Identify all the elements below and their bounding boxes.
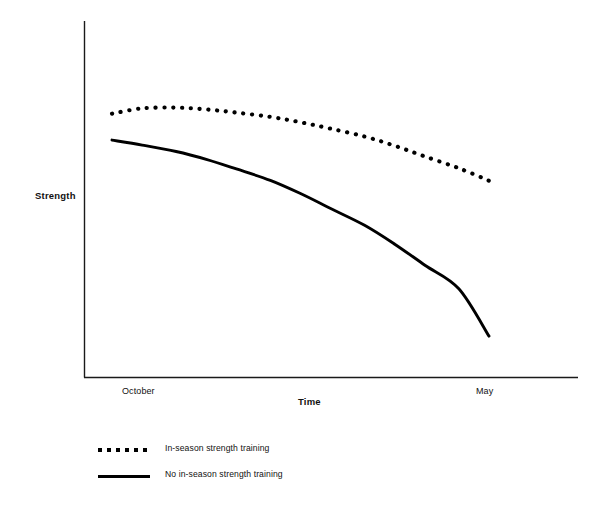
legend-item-in-season: In-season strength training <box>98 440 518 466</box>
x-axis-label: Time <box>298 396 321 407</box>
x-tick-label-october: October <box>122 386 155 396</box>
legend-item-no-in-season: No in-season strength training <box>98 466 518 492</box>
legend-swatch-solid-icon <box>98 475 150 478</box>
x-tick-label-may: May <box>476 386 493 396</box>
chart-container: Strength Time October May In-season stre… <box>0 0 608 510</box>
legend-label-in-season: In-season strength training <box>165 443 269 453</box>
series-line-no-in-season <box>112 140 489 336</box>
legend-swatch-dotted-icon <box>98 448 150 452</box>
legend-label-no-in-season: No in-season strength training <box>165 469 283 479</box>
series-line-in-season <box>112 108 489 181</box>
chart-plot-area <box>0 0 608 510</box>
chart-legend: In-season strength training No in-season… <box>98 440 518 492</box>
y-axis-label: Strength <box>35 190 76 201</box>
